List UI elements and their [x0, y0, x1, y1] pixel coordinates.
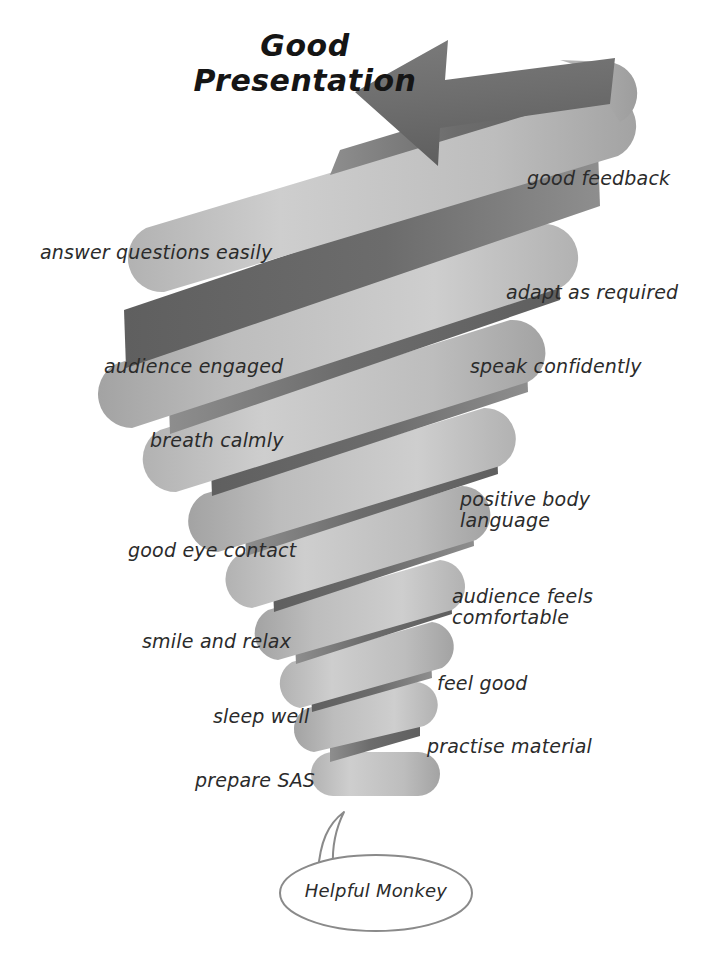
page-title: Good Presentation	[170, 28, 440, 99]
step-label-4: audience engaged	[104, 356, 283, 377]
speech-bubble-text: Helpful Monkey	[286, 880, 466, 901]
step-label-10: smile and relax	[142, 631, 291, 652]
step-label-6: breath calmly	[150, 430, 284, 451]
step-label-14: prepare SAS	[195, 770, 315, 791]
step-label-13: practise material	[427, 736, 592, 757]
step-label-8: good eye contact	[128, 540, 296, 561]
speech-bubble	[280, 812, 472, 931]
step-label-1: good feedback	[527, 168, 670, 189]
step-label-12: sleep well	[213, 706, 309, 727]
step-label-3: adapt as required	[506, 282, 678, 303]
spiral-artwork	[0, 0, 720, 970]
step-label-11: feel good	[437, 673, 528, 694]
step-label-2: answer questions easily	[40, 242, 272, 263]
step-label-9: audience feels comfortable	[452, 586, 593, 629]
diagram-canvas: Good Presentation good feedbackanswer qu…	[0, 0, 720, 970]
step-label-5: speak confidently	[470, 356, 642, 377]
step-label-7: positive body language	[460, 489, 590, 532]
